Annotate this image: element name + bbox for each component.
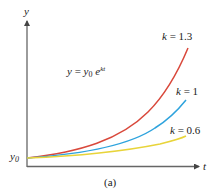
label-k-1: k = 1 bbox=[176, 86, 198, 97]
formula-e: e bbox=[93, 65, 101, 77]
formula: y = y0 ekt bbox=[67, 66, 105, 79]
x-axis-label: t bbox=[203, 161, 206, 172]
label-k-0.6: k = 0.6 bbox=[170, 125, 200, 136]
figure-caption: (a) bbox=[104, 177, 116, 188]
curve-k-1 bbox=[27, 100, 186, 158]
y-axis-label: y bbox=[24, 6, 29, 17]
k-value: = 1 bbox=[181, 85, 198, 97]
formula-exponent: kt bbox=[100, 65, 105, 73]
k-value: = 0.6 bbox=[175, 124, 200, 136]
y0-label: y0 bbox=[10, 151, 19, 164]
curve-k-1.3 bbox=[27, 48, 188, 158]
y0-sub: 0 bbox=[15, 155, 19, 164]
label-k-1.3: k = 1.3 bbox=[162, 31, 192, 42]
formula-eq: = bbox=[72, 65, 84, 77]
k-value: = 1.3 bbox=[167, 30, 192, 42]
